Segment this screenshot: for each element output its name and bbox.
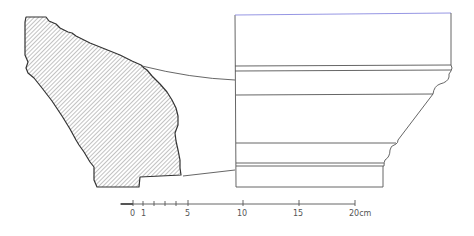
scale-label-15: 15 — [293, 209, 303, 218]
scale-label-0: 0 — [130, 209, 135, 218]
scale-bar-negative-segment — [121, 203, 133, 205]
scale-bar: 0 1 5 10 15 20cm — [120, 200, 372, 218]
scale-label-1: 1 — [141, 209, 146, 218]
upper-connector-line — [142, 66, 235, 80]
scale-label-20cm: 20cm — [349, 209, 372, 218]
reconstructed-molding-profile — [235, 13, 452, 187]
scale-label-10: 10 — [237, 209, 247, 218]
lower-connector-line — [183, 170, 235, 176]
profile-drawing: 0 1 5 10 15 20cm — [0, 0, 474, 236]
scale-label-5: 5 — [185, 209, 190, 218]
section-fragment — [25, 17, 181, 187]
top-edge — [235, 13, 451, 15]
